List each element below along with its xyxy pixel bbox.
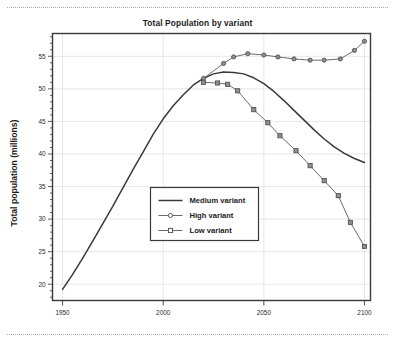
plot-background (53, 34, 371, 301)
y-axis-tick-label: 55 (38, 53, 46, 60)
legend-item-label: High variant (190, 211, 234, 220)
data-point-marker (338, 57, 342, 61)
data-point-marker (308, 164, 312, 168)
legend-item-label: Low variant (190, 226, 233, 235)
data-point-marker (362, 39, 366, 43)
data-point-marker (308, 58, 312, 62)
y-axis-tick-label: 50 (38, 85, 46, 92)
legend-square-marker-icon (168, 228, 172, 232)
y-axis-tick-label: 30 (38, 215, 46, 222)
data-point-marker (294, 149, 298, 153)
chart-legend: Medium variantHigh variantLow variant (151, 188, 259, 241)
data-point-marker (226, 82, 230, 86)
data-point-marker (215, 81, 219, 85)
data-point-marker (266, 121, 270, 125)
y-axis-tick-label: 20 (38, 281, 46, 288)
data-point-marker (262, 53, 266, 57)
data-point-marker (246, 52, 250, 56)
data-point-marker (292, 57, 296, 61)
legend-circle-marker-icon (168, 213, 172, 217)
y-axis-tick-label: 40 (38, 150, 46, 157)
data-point-marker (336, 194, 340, 198)
data-point-marker (322, 58, 326, 62)
data-point-marker (252, 108, 256, 112)
data-point-marker (221, 61, 225, 65)
chart-page: Total Population by variant Total popula… (0, 0, 395, 345)
data-point-marker (352, 48, 356, 52)
y-axis-tick-label: 45 (38, 118, 46, 125)
x-axis-tick-label: 2100 (357, 309, 372, 316)
data-point-marker (236, 89, 240, 93)
data-point-marker (276, 55, 280, 59)
data-point-marker (201, 80, 205, 84)
data-point-marker (278, 134, 282, 138)
data-point-marker (322, 179, 326, 183)
y-axis-tick-label: 25 (38, 248, 46, 255)
y-axis-tick-label: 35 (38, 183, 46, 190)
data-point-marker (348, 220, 352, 224)
legend-item-label: Medium variant (190, 196, 246, 205)
data-point-marker (362, 244, 366, 248)
x-axis-tick-label: 2050 (257, 309, 272, 316)
data-point-marker (232, 55, 236, 59)
x-axis-tick-label: 2000 (156, 309, 171, 316)
chart-plot: 20253035404550551950200020502100Medium v… (0, 0, 395, 345)
x-axis-tick-label: 1950 (55, 309, 70, 316)
